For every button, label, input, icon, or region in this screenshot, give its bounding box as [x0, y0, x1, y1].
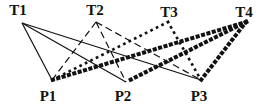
node-label-t4: T4: [235, 5, 253, 20]
node-label-p3: P3: [191, 89, 208, 104]
node-label-t3: T3: [160, 5, 178, 20]
edge-t2-p1: [52, 22, 96, 80]
node-label-t2: T2: [86, 3, 104, 18]
node-label-p1: P1: [40, 89, 57, 104]
node-label-t1: T1: [9, 3, 27, 18]
node-label-p2: P2: [115, 89, 132, 104]
bipartite-diagram: T1 T2 T3 T4 P1 P2 P3: [0, 0, 265, 108]
edge-t4-p1: [52, 22, 246, 80]
